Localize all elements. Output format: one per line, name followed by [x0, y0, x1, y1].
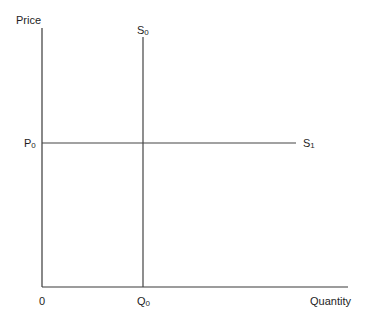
- s1-label-sub: 1: [310, 141, 314, 150]
- s0-label-sub: 0: [144, 28, 148, 37]
- s0-label: S0: [137, 24, 149, 38]
- x-axis-label: Quantity: [310, 295, 351, 307]
- p0-label: P0: [24, 137, 36, 151]
- y-axis-label: Price: [16, 14, 41, 26]
- s1-label: S1: [303, 137, 315, 151]
- diagram-canvas: [0, 0, 368, 320]
- q0-label-main: Q: [137, 295, 146, 307]
- origin-label: 0: [39, 295, 45, 307]
- q0-label: Q0: [137, 295, 150, 309]
- p0-label-sub: 0: [31, 141, 35, 150]
- q0-label-sub: 0: [146, 299, 150, 308]
